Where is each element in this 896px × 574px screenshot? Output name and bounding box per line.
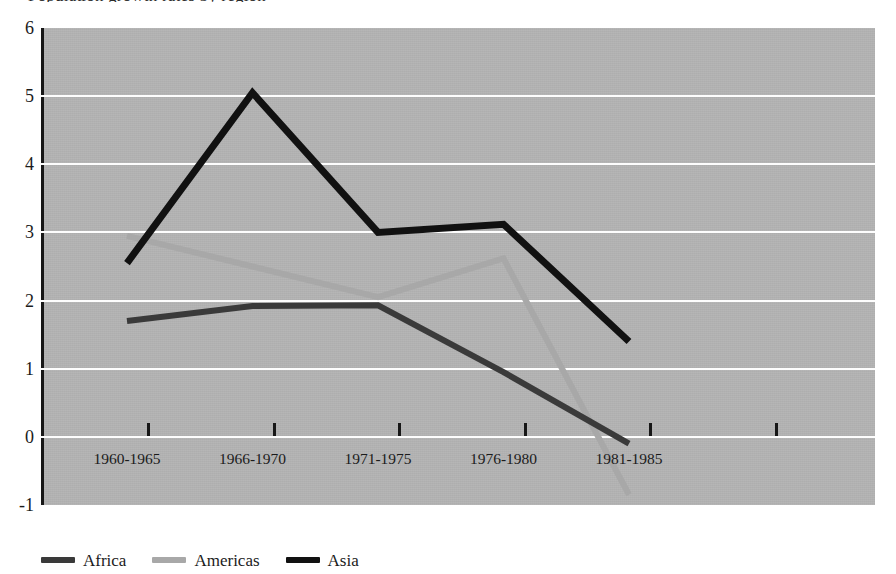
series-lines (41, 28, 875, 505)
legend-swatch-icon (152, 557, 186, 563)
legend-item-americas[interactable]: Americas (152, 552, 259, 569)
y-axis-tick-label: 5 (0, 87, 34, 105)
legend-swatch-icon (286, 557, 320, 563)
y-axis-tick-label: 0 (0, 428, 34, 446)
y-axis-tick-label: 2 (0, 292, 34, 310)
y-axis-tick-label: 4 (0, 155, 34, 173)
y-axis-tick-label: 6 (0, 19, 34, 37)
y-axis-labels: 6543210-1 (0, 28, 34, 505)
legend-item-asia[interactable]: Asia (286, 552, 359, 569)
legend-item-africa[interactable]: Africa (41, 552, 126, 569)
series-line-africa (127, 305, 629, 443)
x-axis-category-label: 1960-1965 (93, 451, 160, 467)
chart-page: Population growth rates by region 654321… (0, 0, 896, 574)
x-axis-category-label: 1966-1970 (219, 451, 286, 467)
y-axis-tick-label: 1 (0, 360, 34, 378)
legend-swatch-icon (41, 557, 75, 563)
chart-legend: AfricaAmericasAsia (41, 548, 359, 572)
x-axis-category-label: 1976-1980 (470, 451, 537, 467)
x-axis-category-label: 1971-1975 (344, 451, 411, 467)
y-axis-tick-label: -1 (0, 496, 34, 514)
legend-label: Americas (194, 552, 259, 569)
legend-label: Asia (328, 552, 359, 569)
page-title-cropped: Population growth rates by region (28, 0, 448, 2)
x-axis-category-label: 1981-1985 (595, 451, 662, 467)
chart-plot-area: 1960-19651966-19701971-19751976-19801981… (41, 28, 875, 505)
y-axis-tick-label: 3 (0, 223, 34, 241)
legend-label: Africa (83, 552, 126, 569)
